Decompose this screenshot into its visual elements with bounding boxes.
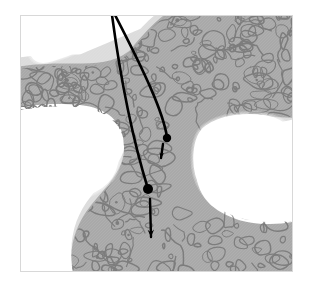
figure-root xyxy=(0,0,311,286)
bone-radiograph-figure xyxy=(0,0,311,286)
